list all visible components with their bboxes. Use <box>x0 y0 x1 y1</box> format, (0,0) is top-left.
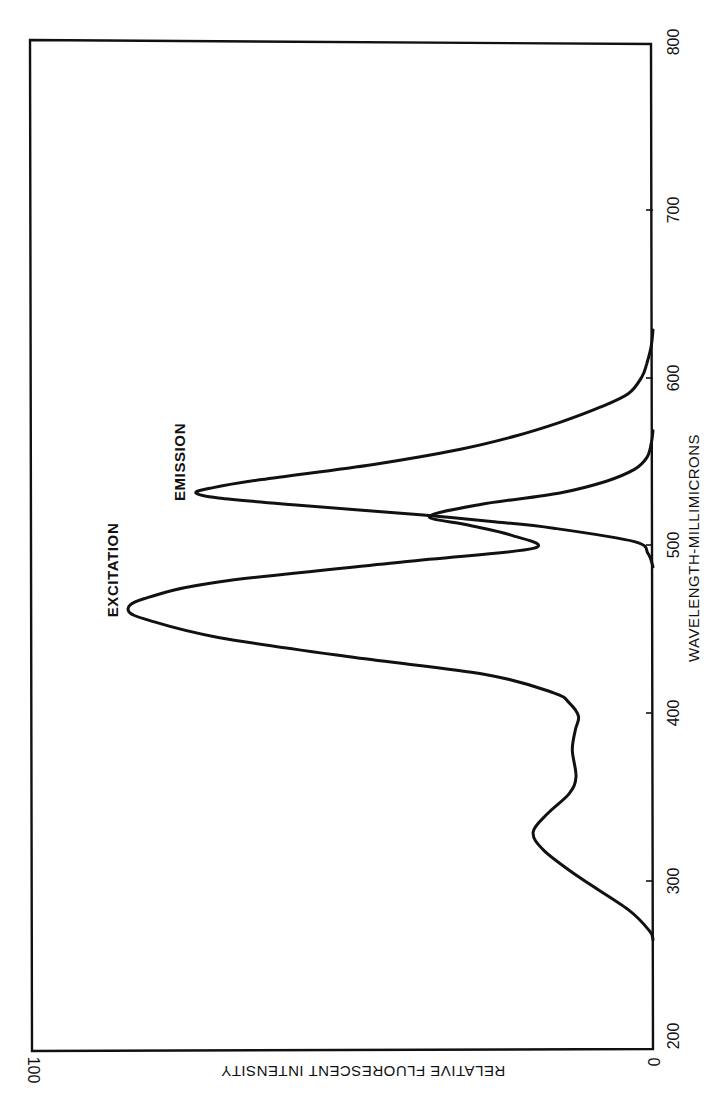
emission-curve <box>196 330 653 567</box>
x-tick-label-200: 200 <box>665 1023 682 1050</box>
chart: 200 300 400 500 600 700 800 WAVELENGTH-M… <box>0 0 724 1110</box>
x-tick-label-300: 300 <box>665 868 682 895</box>
plot-frame <box>30 40 653 1051</box>
x-tick-label-400: 400 <box>665 700 682 727</box>
y-tick-label-0: 0 <box>645 1058 662 1067</box>
x-tick-label-600: 600 <box>665 365 682 392</box>
x-tick-label-800: 800 <box>665 29 682 56</box>
emission-label: EMISSION <box>171 423 188 501</box>
excitation-label: EXCITATION <box>104 523 121 618</box>
excitation-curve <box>128 431 653 940</box>
x-tick-label-500: 500 <box>665 532 682 559</box>
y-tick-label-100: 100 <box>25 1057 42 1084</box>
y-axis-title: RELATIVE FLUORESCENT INTENSITY <box>221 1063 506 1080</box>
x-tick-label-700: 700 <box>665 197 682 224</box>
x-axis-title: WAVELENGTH-MILLIMICRONS <box>685 434 702 662</box>
x-axis-tick-labels: 200 300 400 500 600 700 800 <box>665 29 682 1050</box>
